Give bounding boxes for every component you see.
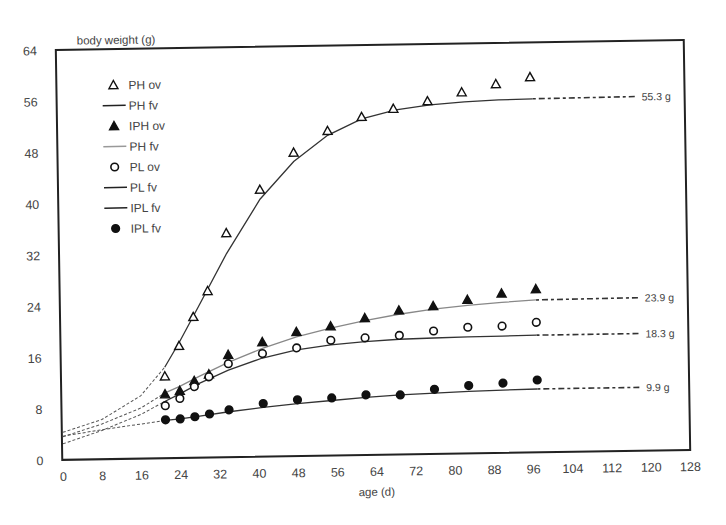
triangle-filled-marker <box>224 350 233 358</box>
x-tick-label: 64 <box>370 465 384 479</box>
fitted-curve <box>164 300 538 393</box>
asymptote-label: 9.9 g <box>646 381 670 393</box>
triangle-filled-marker <box>292 327 301 335</box>
circle-open-marker <box>191 383 199 391</box>
triangle-open-marker <box>109 80 118 88</box>
triangle-open-marker <box>357 112 366 120</box>
circle-filled-marker <box>191 413 199 421</box>
legend-label: IPL fv <box>130 201 160 215</box>
circle-filled-marker <box>431 385 439 393</box>
legend-item: PH fv <box>103 139 159 154</box>
legend-label: PH ov <box>128 78 161 93</box>
circle-filled-marker <box>362 391 370 399</box>
asymptote-label: 18.3 g <box>645 327 675 339</box>
circle-open-marker <box>205 373 213 381</box>
x-tick-label: 96 <box>527 462 541 476</box>
curve-extrapolation <box>63 420 166 436</box>
y-tick-label: 64 <box>23 44 37 58</box>
circle-open-marker <box>532 318 540 326</box>
legend-label: PL fv <box>130 180 157 194</box>
growth-chart: body weight (g) age (d) 0816243240485664… <box>0 0 726 525</box>
circle-open-marker <box>430 327 438 335</box>
y-tick-label: 40 <box>25 198 39 212</box>
legend-item: PH ov <box>109 78 161 93</box>
triangle-open-marker <box>289 148 298 156</box>
triangle-open-marker <box>423 97 432 105</box>
circle-filled-marker <box>176 415 184 423</box>
legend: PH ovPH fvIPH ovPH fvPL ovPL fvIPL fvIPL… <box>102 78 166 236</box>
curve-extrapolation <box>62 393 166 437</box>
circle-open-marker <box>224 360 232 368</box>
x-tick-label: 120 <box>641 460 662 474</box>
x-tick-labels: 081624324048566472808896104112120128 <box>60 460 701 484</box>
curve-extrapolation <box>62 367 166 432</box>
triangle-open-marker <box>203 286 212 294</box>
triangle-filled-marker <box>531 284 540 292</box>
x-tick-label: 32 <box>213 467 227 481</box>
asymptote-annotations: 55.3 g23.9 g18.3 g9.9 g <box>642 90 676 393</box>
triangle-filled-marker <box>463 295 472 303</box>
circle-filled-marker <box>533 376 541 384</box>
x-tick-label: 80 <box>448 464 462 478</box>
triangle-open-marker <box>491 79 500 87</box>
x-tick-label: 72 <box>409 464 423 478</box>
triangle-filled-marker <box>497 289 506 297</box>
fitted-curve <box>161 99 537 367</box>
triangle-filled-marker <box>258 337 267 345</box>
asymptote-label: 23.9 g <box>645 291 675 303</box>
asymptote-line <box>537 334 642 336</box>
y-tick-label: 56 <box>24 95 38 109</box>
legend-label: IPH ov <box>129 119 165 134</box>
circle-filled-marker <box>259 400 267 408</box>
legend-item: IPL fv <box>104 201 160 216</box>
legend-item: PL ov <box>111 160 160 175</box>
y-tick-label: 0 <box>36 454 43 468</box>
circle-filled-marker <box>162 416 170 424</box>
circle-open-marker <box>111 163 119 171</box>
y-tick-label: 32 <box>26 249 40 263</box>
triangle-open-marker <box>174 341 183 349</box>
circle-open-marker <box>161 402 169 410</box>
y-tick-label: 48 <box>24 147 38 161</box>
x-axis-label: age (d) <box>358 486 395 499</box>
asymptote-label: 55.3 g <box>642 90 672 102</box>
triangle-open-marker <box>323 126 332 134</box>
y-tick-label: 8 <box>35 403 42 417</box>
triangle-open-marker <box>222 228 231 236</box>
circle-filled-marker <box>328 394 336 402</box>
x-tick-label: 48 <box>292 466 306 480</box>
y-axis-label: body weight (g) <box>77 33 156 46</box>
triangle-open-marker <box>457 88 466 96</box>
triangle-open-marker <box>525 72 534 80</box>
triangle-filled-marker <box>394 306 403 314</box>
triangle-filled-marker <box>326 322 335 330</box>
circle-filled-marker <box>112 225 120 233</box>
triangle-open-marker <box>389 104 398 112</box>
triangle-open-marker <box>189 312 198 320</box>
circle-open-marker <box>327 336 335 344</box>
x-tick-label: 24 <box>174 468 188 482</box>
legend-label: IPL fv <box>131 221 161 235</box>
circle-filled-marker <box>499 379 507 387</box>
triangle-filled-marker <box>360 313 369 321</box>
circle-filled-marker <box>294 396 302 404</box>
legend-item: PH fv <box>103 98 159 113</box>
circle-open-marker <box>498 322 506 330</box>
y-tick-labels: 0816243240485664 <box>23 44 44 468</box>
x-tick-label: 16 <box>135 469 149 483</box>
triangle-filled-marker <box>429 301 438 309</box>
triangle-open-marker <box>160 372 169 380</box>
y-tick-label: 16 <box>28 352 42 366</box>
legend-item: IPL fv <box>112 221 161 236</box>
circle-filled-marker <box>206 410 214 418</box>
asymptote-line <box>533 97 638 99</box>
triangle-open-marker <box>255 185 264 193</box>
circle-open-marker <box>361 334 369 342</box>
circle-open-marker <box>259 350 267 358</box>
curve-extrapolation <box>62 401 166 444</box>
x-tick-label: 128 <box>680 460 701 474</box>
x-tick-label: 112 <box>602 461 622 475</box>
circle-filled-marker <box>396 391 404 399</box>
x-tick-label: 88 <box>487 463 501 477</box>
legend-label: PL ov <box>130 160 160 174</box>
